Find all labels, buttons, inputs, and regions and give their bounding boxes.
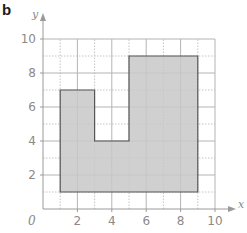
shaded-shape [60, 56, 198, 192]
x-tick-label: 8 [177, 214, 185, 228]
y-axis-arrow-icon [40, 13, 46, 21]
y-tick-label: 10 [21, 32, 36, 46]
x-tick-label: 4 [108, 214, 116, 228]
x-tick-label: 2 [74, 214, 82, 228]
y-tick-label: 4 [28, 134, 36, 148]
y-tick-label: 6 [28, 100, 36, 114]
y-tick-label: 2 [28, 168, 36, 182]
x-tick-label: 10 [207, 214, 222, 228]
origin-label: 0 [28, 214, 36, 228]
coordinate-grid-diagram: 246810246810 x y 0 [0, 0, 247, 233]
x-axis-label: x [238, 198, 245, 211]
y-axis-label: y [31, 8, 39, 21]
x-tick-label: 6 [142, 214, 150, 228]
x-axis-arrow-icon [228, 206, 236, 212]
y-tick-label: 8 [28, 66, 36, 80]
